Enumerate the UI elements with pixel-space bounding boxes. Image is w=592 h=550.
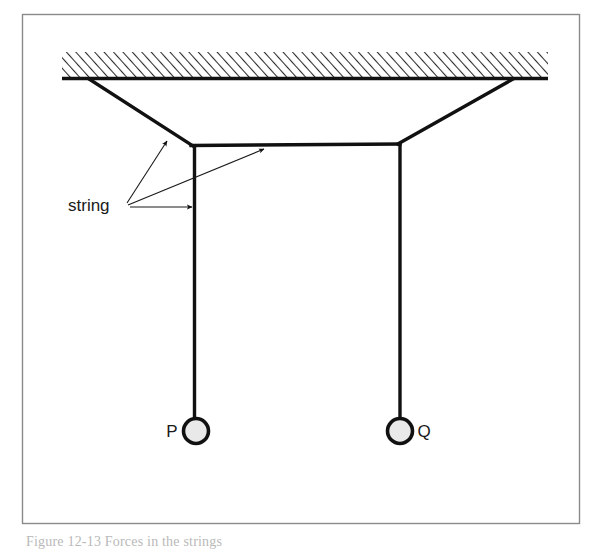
mass-p: P [166,419,208,444]
string-label: string [68,196,110,215]
string-assembly [89,79,513,420]
right-diagonal-string [398,79,513,144]
left-diagonal-string [89,79,193,146]
mass-q: Q [388,419,431,444]
mass-q-label: Q [417,422,430,441]
mass-p-label: P [166,422,177,441]
mass-q-ball [388,419,413,444]
ceiling-support [55,48,555,82]
figure-caption: Figure 12-13 Forces in the strings [26,534,222,550]
string-callout: string [68,141,264,215]
horizontal-string [191,144,400,146]
arrow-to-left-diagonal-string [127,141,167,203]
mass-p-ball [184,419,209,444]
